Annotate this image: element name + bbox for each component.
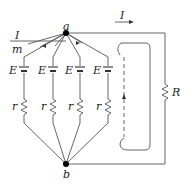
emf-label-1: E — [9, 65, 17, 76]
circuit-wires — [0, 0, 190, 186]
emf-label-3: E — [65, 65, 73, 76]
circuit-diagram: a b I m I R E E E E r r r r — [0, 0, 190, 186]
current-label-top: I — [120, 10, 124, 21]
branch-label-m: m — [12, 44, 22, 55]
node-b-label: b — [63, 169, 70, 180]
resistance-label-1: r — [12, 101, 17, 112]
resistance-label-3: r — [68, 101, 73, 112]
resistance-label-2: r — [41, 101, 46, 112]
resistor-R-label: R — [172, 87, 180, 98]
current-label-left: I — [15, 30, 19, 41]
resistance-label-4: r — [96, 101, 101, 112]
emf-label-4: E — [93, 65, 101, 76]
emf-label-2: E — [38, 65, 46, 76]
node-a-label: a — [63, 21, 70, 32]
